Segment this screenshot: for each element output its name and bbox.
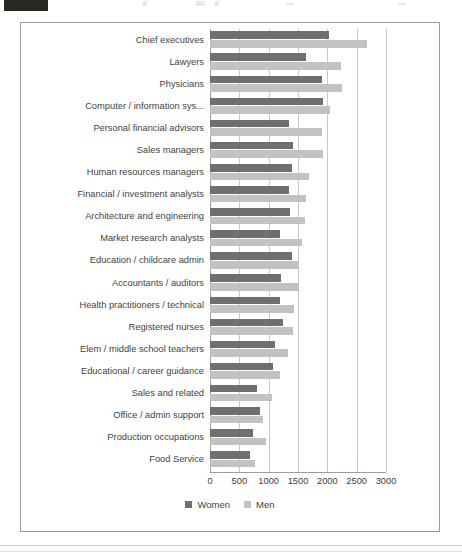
- chart-row: Lawyers: [21, 51, 439, 73]
- bar-group: [210, 250, 435, 272]
- scan-smudge: [142, 1, 147, 6]
- category-label: Registered nurses: [21, 322, 210, 333]
- chart-row: Sales managers: [21, 139, 439, 161]
- bar-group: [210, 162, 435, 184]
- category-label: Education / childcare admin: [21, 255, 210, 266]
- bar-men: [210, 327, 293, 335]
- x-axis-tick-labels: 050010001500200025003000: [210, 475, 450, 489]
- chart-row: Physicians: [21, 73, 439, 95]
- legend-label: Women: [197, 499, 230, 510]
- bar-group: [210, 29, 435, 51]
- bar-men: [210, 173, 309, 181]
- bar-women: [210, 252, 292, 260]
- bar-men: [210, 283, 299, 291]
- bar-men: [210, 195, 306, 203]
- category-label: Accountants / auditors: [21, 278, 210, 289]
- chart-row: Registered nurses: [21, 316, 439, 338]
- bar-women: [210, 341, 275, 349]
- category-label: Lawyers: [21, 57, 210, 68]
- bar-men: [210, 416, 263, 424]
- chart-row: Accountants / auditors: [21, 272, 439, 294]
- x-tick-label-0: 0: [207, 475, 212, 487]
- bar-men: [210, 394, 272, 402]
- category-label: Market research analysts: [21, 233, 210, 244]
- bar-men: [210, 305, 294, 313]
- bar-men: [210, 150, 323, 158]
- chart-row: Chief executives: [21, 29, 439, 51]
- chart-row: Educational / career guidance: [21, 360, 439, 382]
- chart-row: Market research analysts: [21, 228, 439, 250]
- legend-item[interactable]: Men: [244, 499, 274, 510]
- x-axis-line: [210, 472, 386, 473]
- bar-women: [210, 53, 306, 61]
- bar-women: [210, 230, 280, 238]
- bar-women: [210, 98, 323, 106]
- chart-row: Health practitioners / technical: [21, 294, 439, 316]
- bar-group: [210, 449, 435, 471]
- bar-women: [210, 429, 253, 437]
- category-label: Elem / middle school teachers: [21, 344, 210, 355]
- bar-group: [210, 405, 435, 427]
- bar-group: [210, 206, 435, 228]
- page-rule: [0, 545, 462, 546]
- chart-row: Personal financial advisors: [21, 117, 439, 139]
- bar-rows: Chief executivesLawyersPhysiciansCompute…: [21, 29, 439, 471]
- bar-group: [210, 228, 435, 250]
- chart-row: Computer / information sys...: [21, 95, 439, 117]
- category-label: Office / admin support: [21, 410, 210, 421]
- chart-row: Human resources managers: [21, 162, 439, 184]
- bar-men: [210, 438, 266, 446]
- bar-men: [210, 261, 298, 269]
- category-label: Production occupations: [21, 432, 210, 443]
- scan-smudge: [286, 3, 294, 5]
- bar-men: [210, 349, 288, 357]
- bar-group: [210, 360, 435, 382]
- bar-men: [210, 371, 280, 379]
- chart-row: Sales and related: [21, 383, 439, 405]
- legend-swatch-icon: [244, 501, 251, 508]
- scan-artifact-block: [4, 0, 48, 11]
- bar-group: [210, 338, 435, 360]
- scan-smudge: [196, 1, 205, 6]
- category-label: Personal financial advisors: [21, 123, 210, 134]
- x-tick-label-500: 500: [232, 475, 248, 487]
- legend-swatch-icon: [185, 501, 192, 508]
- category-label: Physicians: [21, 79, 210, 90]
- x-tick-label-3000: 3000: [376, 475, 397, 487]
- bar-women: [210, 407, 260, 415]
- bar-men: [210, 217, 305, 225]
- bar-women: [210, 164, 292, 172]
- chart-row: Production occupations: [21, 427, 439, 449]
- bar-women: [210, 319, 283, 327]
- bar-men: [210, 84, 342, 92]
- x-tick-label-1000: 1000: [258, 475, 279, 487]
- category-label: Educational / career guidance: [21, 366, 210, 377]
- chart-row: Financial / investment analysts: [21, 184, 439, 206]
- legend-label: Men: [256, 499, 274, 510]
- category-label: Financial / investment analysts: [21, 189, 210, 200]
- category-label: Architecture and engineering: [21, 211, 210, 222]
- scan-artifacts: [0, 0, 462, 24]
- category-label: Health practitioners / technical: [21, 300, 210, 311]
- bar-women: [210, 76, 322, 84]
- bar-group: [210, 51, 435, 73]
- bar-group: [210, 95, 435, 117]
- chart-row: Education / childcare admin: [21, 250, 439, 272]
- scan-smudge: [214, 1, 219, 6]
- bar-men: [210, 460, 255, 468]
- bar-women: [210, 297, 280, 305]
- bar-group: [210, 427, 435, 449]
- chart-row: Office / admin support: [21, 405, 439, 427]
- bar-men: [210, 40, 367, 48]
- legend-item[interactable]: Women: [185, 499, 230, 510]
- x-tick-label-1500: 1500: [288, 475, 309, 487]
- chart-legend: WomenMen: [21, 499, 439, 510]
- category-label: Sales managers: [21, 145, 210, 156]
- bar-women: [210, 142, 293, 150]
- bar-women: [210, 186, 289, 194]
- bar-group: [210, 316, 435, 338]
- category-label: Chief executives: [21, 35, 210, 46]
- bar-women: [210, 120, 289, 128]
- bar-women: [210, 385, 257, 393]
- bar-men: [210, 239, 302, 247]
